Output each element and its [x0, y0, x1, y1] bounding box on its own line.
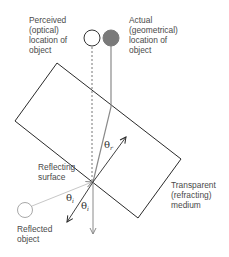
actual-label-line: location of — [129, 35, 178, 45]
reflected-label-line: object — [17, 234, 52, 244]
perceived-object-circle — [84, 30, 100, 46]
medium-label-line: Transparent — [171, 180, 216, 190]
reflecting-surface-label: Reflecting surface — [38, 162, 75, 182]
medium-label-line: medium — [171, 200, 216, 210]
angle-incidence-right-label: θi — [81, 201, 89, 214]
reflected-label-line: Reflected — [17, 224, 52, 234]
theta-subscript: i — [72, 197, 74, 204]
diagram-canvas: Perceived (optical) location of object A… — [0, 0, 229, 257]
transparent-medium-block — [15, 63, 181, 218]
medium-label-line: (refracting) — [171, 190, 216, 200]
reflected-object-circle — [18, 203, 33, 218]
perceived-label-line: location of — [29, 35, 67, 45]
perceived-label-line: (optical) — [29, 25, 67, 35]
transparent-medium-label: Transparent (refracting) medium — [171, 180, 216, 210]
actual-label-line: object — [129, 45, 178, 55]
theta-subscript: r — [110, 144, 113, 151]
actual-label-line: Actual — [129, 15, 178, 25]
theta-subscript: i — [87, 205, 89, 212]
actual-object-circle — [103, 30, 119, 46]
perceived-label-line: object — [29, 45, 67, 55]
perceived-location-label: Perceived (optical) location of object — [29, 15, 67, 55]
actual-label-line: (geometrical) — [129, 25, 178, 35]
reflecting-label-line: surface — [38, 172, 75, 182]
actual-location-label: Actual (geometrical) location of object — [129, 15, 178, 55]
perceived-label-line: Perceived — [29, 15, 67, 25]
reflecting-label-line: Reflecting — [38, 162, 75, 172]
angle-refraction-label: θr — [104, 140, 113, 153]
reflected-object-label: Reflected object — [17, 224, 52, 244]
angle-incidence-left-label: θi — [66, 193, 74, 206]
